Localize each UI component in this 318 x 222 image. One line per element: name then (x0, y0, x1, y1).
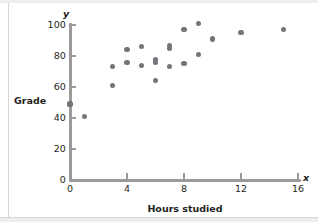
data-point (139, 63, 144, 68)
data-point (210, 36, 215, 41)
data-point (153, 78, 158, 83)
x-tick-12 (240, 173, 242, 179)
y-tick-label-20: 20 (26, 143, 66, 154)
y-tick-40 (71, 117, 76, 119)
x-tick-label-0: 0 (55, 183, 85, 194)
x-tick-label-12: 12 (226, 183, 256, 194)
x-axis-line (69, 179, 301, 182)
x-axis-title: Hours studied (0, 203, 318, 214)
y-tick-label-60: 60 (26, 81, 66, 92)
data-point (167, 64, 172, 69)
y-tick-label-40: 40 (26, 112, 66, 123)
data-point (110, 83, 115, 88)
y-tick-20 (71, 148, 76, 150)
data-point (153, 60, 158, 65)
y-tick-label-100: 100 (26, 19, 66, 30)
y-tick-0 (71, 179, 76, 181)
y-tick-80 (71, 55, 76, 57)
data-point (238, 30, 243, 35)
data-point (167, 46, 172, 51)
data-point (139, 44, 144, 49)
x-tick-label-8: 8 (169, 183, 199, 194)
data-point (82, 114, 87, 119)
x-tick-label-4: 4 (112, 183, 142, 194)
data-point (281, 27, 286, 32)
data-point (196, 21, 201, 26)
x-tick-16 (297, 173, 299, 179)
x-tick-label-16: 16 (283, 183, 313, 194)
y-tick-60 (71, 86, 76, 88)
data-point (124, 47, 129, 52)
scatter-plot-figure: y x Grade Hours studied 020406080100 048… (0, 0, 318, 222)
data-point (110, 64, 115, 69)
y-tick-label-80: 80 (26, 50, 66, 61)
y-tick-100 (71, 24, 76, 26)
data-point (124, 60, 129, 65)
page-background: y x Grade Hours studied 020406080100 048… (0, 0, 318, 222)
y-axis-letter: y (63, 8, 69, 19)
x-axis-letter: x (303, 172, 309, 183)
y-axis-title: Grade (14, 95, 46, 106)
data-point (181, 27, 186, 32)
x-tick-8 (183, 173, 185, 179)
data-point (196, 52, 201, 57)
x-tick-4 (126, 173, 128, 179)
data-point (181, 61, 186, 66)
data-point (67, 101, 72, 106)
